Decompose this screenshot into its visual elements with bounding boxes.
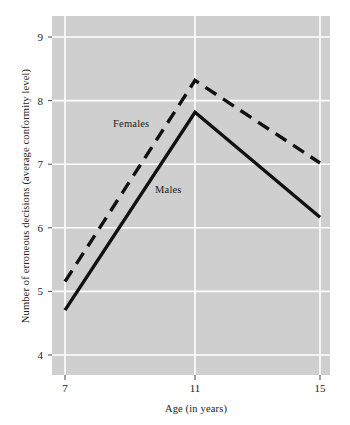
series-label-females: Females <box>113 118 149 129</box>
y-axis-ticks <box>48 37 52 355</box>
y-tick-label-6: 6 <box>38 222 44 234</box>
series-label-males: Males <box>155 184 182 195</box>
y-tick-label-7: 7 <box>38 158 44 170</box>
x-tick-label-15: 15 <box>315 382 327 394</box>
y-tick-label-5: 5 <box>38 285 44 297</box>
y-axis-tick-labels: 4 5 6 7 8 9 <box>38 31 44 361</box>
x-axis-ticks <box>65 375 320 380</box>
y-tick-label-9: 9 <box>38 31 44 43</box>
plot-background <box>52 16 330 375</box>
x-axis-tick-labels: 7 11 15 <box>62 382 326 394</box>
y-axis-title: Number of erroneous decisions (average c… <box>20 68 32 323</box>
x-tick-label-7: 7 <box>62 382 68 394</box>
y-tick-label-4: 4 <box>38 349 44 361</box>
y-tick-label-8: 8 <box>38 95 44 107</box>
line-chart: 4 5 6 7 8 9 7 11 15 Females Males Age (i… <box>0 0 350 425</box>
x-tick-label-11: 11 <box>190 382 201 394</box>
figure-container: 4 5 6 7 8 9 7 11 15 Females Males Age (i… <box>0 0 350 425</box>
x-axis-title: Age (in years) <box>165 403 228 415</box>
